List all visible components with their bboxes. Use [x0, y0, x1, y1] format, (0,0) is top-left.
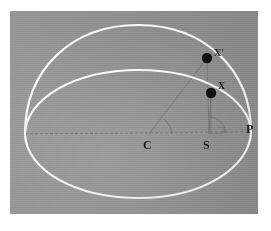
figure-root: X' X C S P — [0, 0, 271, 231]
point-x-prime-marker — [202, 53, 212, 63]
label-x-prime: X' — [214, 48, 224, 58]
lower-arc-curve — [25, 132, 251, 198]
radius-line-c-xprime — [149, 58, 207, 134]
label-x: X — [218, 81, 225, 91]
angle-arc-center — [164, 119, 172, 134]
label-p: P — [246, 123, 253, 135]
label-s: S — [203, 139, 210, 151]
diagram-plate: X' X C S P — [10, 11, 258, 214]
point-x-marker — [206, 88, 216, 98]
label-c: C — [143, 139, 152, 151]
diagram-canvas — [10, 11, 258, 214]
